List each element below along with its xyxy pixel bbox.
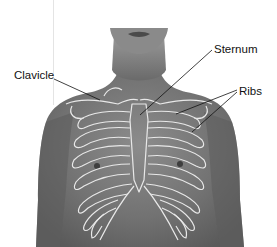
sternum-label: Sternum [214, 44, 257, 56]
ribs-label: Ribs [239, 86, 262, 98]
torso-illustration [0, 0, 277, 247]
torso-diagram: Clavicle Sternum Ribs [0, 0, 277, 247]
torso-body [36, 0, 244, 247]
clavicle-label: Clavicle [14, 70, 54, 82]
